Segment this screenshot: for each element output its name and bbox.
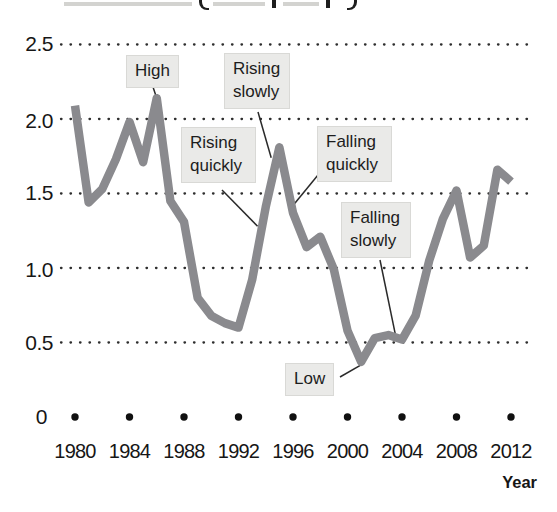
data-line-series bbox=[75, 98, 511, 362]
baseline-dot-marker bbox=[398, 413, 405, 420]
x-tick-label: 1988 bbox=[156, 440, 212, 462]
baseline-dot-marker bbox=[71, 413, 78, 420]
x-tick-label: 2000 bbox=[320, 440, 376, 462]
baseline-dot-marker bbox=[126, 413, 133, 420]
x-tick-label: 2004 bbox=[374, 440, 430, 462]
y-tick-label: 1.5 bbox=[0, 180, 53, 206]
x-tick-label: 2008 bbox=[429, 440, 485, 462]
x-tick-label: 1984 bbox=[102, 440, 158, 462]
x-axis-title: Year bbox=[470, 473, 537, 492]
y-tick-label-zero: 0 bbox=[0, 404, 47, 430]
annotation-leader-line bbox=[293, 175, 318, 205]
annotation-high: High bbox=[126, 55, 179, 88]
baseline-dot-marker bbox=[180, 413, 187, 420]
annotation-rising-quickly: Rising quickly bbox=[181, 127, 256, 183]
y-tick-label: 2.5 bbox=[0, 31, 53, 57]
baseline-dot-marker bbox=[235, 413, 242, 420]
annotation-low: Low bbox=[285, 363, 334, 396]
chart-canvas: { "axis": { "x_label": "Year", "y_tick_l… bbox=[0, 0, 557, 512]
annotation-leader-line bbox=[222, 190, 258, 226]
baseline-dot-marker bbox=[344, 413, 351, 420]
x-tick-label: 1996 bbox=[265, 440, 321, 462]
annotation-leader-line bbox=[340, 365, 361, 377]
y-tick-label: 0.5 bbox=[0, 330, 53, 356]
annotation-leader-line bbox=[380, 260, 395, 334]
baseline-dot-marker bbox=[507, 413, 514, 420]
annotation-falling-slowly: Falling slowly bbox=[341, 202, 411, 258]
annotation-rising-slowly: Rising slowly bbox=[224, 53, 290, 109]
x-tick-label: 1980 bbox=[47, 440, 103, 462]
x-tick-label: 2012 bbox=[483, 440, 539, 462]
y-tick-label: 2.0 bbox=[0, 108, 53, 134]
y-tick-label: 1.0 bbox=[0, 257, 53, 283]
baseline-dot-marker bbox=[453, 413, 460, 420]
x-tick-label: 1992 bbox=[211, 440, 267, 462]
baseline-dot-marker bbox=[289, 413, 296, 420]
annotation-falling-quickly: Falling quickly bbox=[317, 126, 392, 182]
